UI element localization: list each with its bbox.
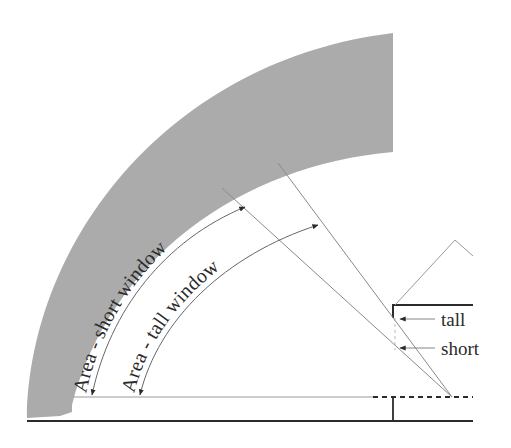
label-short: short <box>441 338 480 359</box>
roof-outline <box>395 240 473 305</box>
sky-band <box>27 33 393 418</box>
window-area-diagram: Area - short window Area - tall window t… <box>0 0 511 448</box>
sight-line-short <box>222 188 452 397</box>
label-tall: tall <box>441 309 465 330</box>
sight-line-tall <box>278 163 452 397</box>
